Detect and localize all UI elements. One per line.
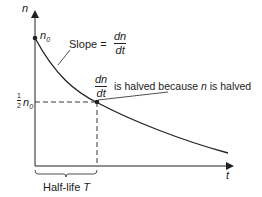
- n0-label: n0: [40, 30, 50, 43]
- halved-fraction: dndt: [95, 74, 107, 99]
- n0-point: [33, 36, 38, 41]
- half-point: [95, 100, 100, 105]
- half-fraction: 12: [17, 92, 21, 109]
- slope-fraction: dndt: [114, 31, 126, 56]
- half-n0-label: n0: [23, 97, 33, 110]
- decay-curve: [35, 38, 228, 153]
- y-axis-label: n: [22, 3, 28, 14]
- x-axis-label: t: [226, 170, 229, 181]
- halved-label: is halved because n is halved: [114, 81, 251, 92]
- slope-label: Slope =: [69, 39, 107, 50]
- decay-diagram: n t n0 Slope = dndt dndt is halved becau…: [0, 0, 262, 197]
- halflife-brace: [35, 170, 97, 177]
- slope-leader: [58, 50, 70, 65]
- halved-leader: [98, 92, 168, 100]
- halflife-label: Half-life T: [43, 182, 90, 193]
